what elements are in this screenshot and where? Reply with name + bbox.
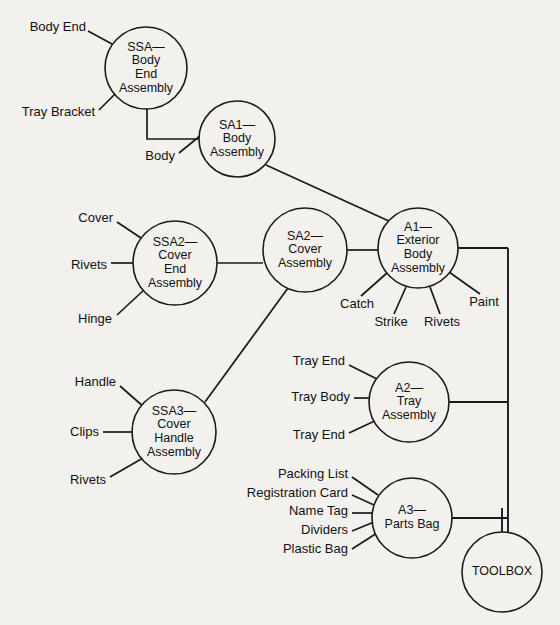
node-ssa2-cover-end[interactable]: SSA2—CoverEndAssembly xyxy=(133,221,217,305)
part-label-tray-body: Tray Body xyxy=(291,389,350,404)
part-label-tray-bracket: Tray Bracket xyxy=(22,104,96,119)
node-label-ssa2-cover-end: Assembly xyxy=(148,276,203,290)
connector-rivets-to-a1 xyxy=(430,287,440,314)
part-label-body: Body xyxy=(145,148,175,163)
node-label-a1-exterior-body: Assembly xyxy=(391,261,446,275)
connector-cover-to-ssa2 xyxy=(117,222,144,240)
connector-plastic-bag-to-a3 xyxy=(352,533,377,549)
part-label-rivets-a1: Rivets xyxy=(424,314,461,329)
part-label-registration-card: Registration Card xyxy=(247,485,348,500)
node-a2-tray[interactable]: A2—TrayAssembly xyxy=(369,362,449,442)
part-label-dividers: Dividers xyxy=(301,522,348,537)
node-label-toolbox: TOOLBOX xyxy=(472,564,533,578)
connector-ssa-to-sa1 xyxy=(147,109,200,139)
connector-paint-to-a1 xyxy=(449,272,480,294)
connector-sa2-to-ssa3 xyxy=(205,288,288,402)
part-labels-group: Body EndTray BracketBodyCoverRivetsHinge… xyxy=(22,19,499,556)
part-label-clips: Clips xyxy=(70,424,99,439)
main-bus-group xyxy=(449,248,508,533)
part-label-tray-end-bottom: Tray End xyxy=(293,427,345,442)
connector-registration-card-to-a3 xyxy=(352,495,374,505)
part-label-body-end: Body End xyxy=(30,19,86,34)
part-label-packing-list: Packing List xyxy=(278,466,348,481)
node-label-a1-exterior-body: Body xyxy=(404,247,433,261)
part-label-catch: Catch xyxy=(340,296,374,311)
node-label-ssa2-cover-end: End xyxy=(164,262,186,276)
node-label-ssa3-cover-handle: SSA3— xyxy=(152,404,197,418)
node-label-sa2-cover: Assembly xyxy=(278,256,333,270)
node-label-ssa3-cover-handle: Handle xyxy=(154,431,194,445)
connector-dividers-to-a3 xyxy=(352,522,374,531)
assembly-diagram: SSA—BodyEndAssemblySA1—BodyAssemblySSA2—… xyxy=(0,0,560,625)
node-ssa-body-end[interactable]: SSA—BodyEndAssembly xyxy=(105,27,187,109)
part-label-handle: Handle xyxy=(75,374,116,389)
part-label-paint: Paint xyxy=(469,294,499,309)
node-label-ssa-body-end: SSA— xyxy=(127,40,165,54)
connector-catch-to-a1 xyxy=(361,273,387,296)
node-toolbox[interactable]: TOOLBOX xyxy=(462,532,542,612)
node-label-ssa-body-end: Body xyxy=(132,53,161,67)
connector-rivets-to-ssa3 xyxy=(110,458,143,477)
node-a3-parts-bag[interactable]: A3—Parts Bag xyxy=(372,478,452,558)
node-label-ssa-body-end: Assembly xyxy=(119,81,174,95)
part-label-plastic-bag: Plastic Bag xyxy=(283,541,348,556)
part-label-rivets-cover-end: Rivets xyxy=(71,257,108,272)
connector-hinge-to-ssa2 xyxy=(117,289,145,315)
node-a1-exterior-body[interactable]: A1—ExteriorBodyAssembly xyxy=(378,208,458,288)
node-label-sa2-cover: SA2— xyxy=(287,229,324,243)
node-ssa3-cover-handle[interactable]: SSA3—CoverHandleAssembly xyxy=(132,390,216,474)
node-label-sa1-body: Body xyxy=(223,131,252,145)
part-label-rivets-handle: Rivets xyxy=(70,472,107,487)
node-label-a3-parts-bag: A3— xyxy=(398,503,426,517)
node-sa2-cover[interactable]: SA2—CoverAssembly xyxy=(263,208,347,292)
connector-packing-list-to-a3 xyxy=(352,477,378,495)
node-label-a1-exterior-body: A1— xyxy=(404,220,432,234)
part-label-cover: Cover xyxy=(78,210,113,225)
node-label-ssa2-cover-end: Cover xyxy=(158,248,191,262)
node-label-a1-exterior-body: Exterior xyxy=(396,233,439,247)
connector-body-end-to-ssa xyxy=(88,31,112,44)
node-label-ssa3-cover-handle: Cover xyxy=(157,417,190,431)
node-label-a3-parts-bag: Parts Bag xyxy=(385,517,440,531)
node-label-ssa3-cover-handle: Assembly xyxy=(147,445,202,459)
node-label-sa1-body: SA1— xyxy=(219,118,256,132)
part-label-strike: Strike xyxy=(374,314,407,329)
part-label-name-tag: Name Tag xyxy=(289,503,348,518)
assembly-diagram-canvas: SSA—BodyEndAssemblySA1—BodyAssemblySSA2—… xyxy=(0,0,560,625)
node-sa1-body[interactable]: SA1—BodyAssembly xyxy=(199,101,275,177)
part-label-tray-end-top: Tray End xyxy=(293,353,345,368)
node-label-a2-tray: Assembly xyxy=(382,408,437,422)
node-label-sa1-body: Assembly xyxy=(210,145,265,159)
node-label-a2-tray: Tray xyxy=(397,394,422,408)
node-label-a2-tray: A2— xyxy=(395,381,423,395)
node-label-ssa-body-end: End xyxy=(135,67,157,81)
node-label-ssa2-cover-end: SSA2— xyxy=(153,235,198,249)
node-label-sa2-cover: Cover xyxy=(288,242,321,256)
connector-strike-to-a1 xyxy=(394,287,406,314)
part-label-hinge: Hinge xyxy=(78,311,112,326)
